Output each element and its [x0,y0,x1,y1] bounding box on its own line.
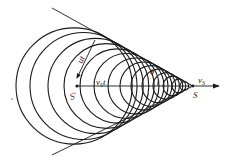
source-distance-label: vSt [96,77,106,88]
angle-label: θ [150,68,154,77]
mach-cone-diagram: ut S' vSt θ vS S [0,0,225,166]
velocity-sub: S [202,80,205,86]
wave-radius-label: ut [75,54,87,65]
stray-mark [11,98,12,99]
earlier-source-label: S' [68,90,78,102]
source-point [192,85,195,88]
source-label: S [193,90,198,100]
source-distance-t: t [103,77,106,87]
earlier-source-point [75,84,78,87]
velocity-label: vS [198,75,205,86]
